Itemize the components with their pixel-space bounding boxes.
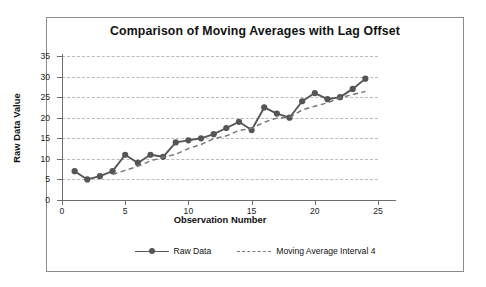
- y-tick-label: 5: [26, 174, 50, 184]
- y-tick-label: 30: [26, 72, 50, 82]
- chart-title: Comparison of Moving Averages with Lag O…: [46, 24, 464, 38]
- data-series-layer: [62, 56, 378, 200]
- data-point-marker: [350, 86, 356, 92]
- data-point-marker: [122, 152, 128, 158]
- x-tick: [315, 200, 316, 205]
- data-point-marker: [97, 173, 103, 179]
- y-tick-label: 25: [26, 92, 50, 102]
- y-tick: [57, 97, 62, 98]
- chart-page: Comparison of Moving Averages with Lag O…: [0, 0, 486, 287]
- series-line: [113, 91, 366, 174]
- data-point-marker: [173, 139, 179, 145]
- x-tick: [125, 200, 126, 205]
- x-tick-label: 5: [115, 206, 135, 216]
- legend-item-moving-average: Moving Average Interval 4: [237, 246, 375, 256]
- y-tick: [57, 118, 62, 119]
- x-tick-label: 0: [52, 206, 72, 216]
- x-tick: [378, 200, 379, 205]
- x-axis-line: [60, 200, 396, 201]
- data-point-marker: [72, 168, 78, 174]
- y-axis-title: Raw Data Value: [11, 93, 22, 162]
- y-tick: [57, 138, 62, 139]
- x-axis-title: Observation Number: [62, 214, 378, 225]
- x-tick-label: 15: [242, 206, 262, 216]
- data-point-marker: [198, 135, 204, 141]
- y-axis-line: [62, 54, 63, 202]
- x-tick-label: 10: [178, 206, 198, 216]
- data-point-marker: [299, 98, 305, 104]
- data-point-marker: [147, 152, 153, 158]
- y-tick-label: 35: [26, 51, 50, 61]
- y-tick: [57, 77, 62, 78]
- legend-label: Raw Data: [174, 246, 212, 256]
- y-tick: [57, 179, 62, 180]
- data-point-marker: [236, 119, 242, 125]
- y-tick-label: 15: [26, 133, 50, 143]
- data-point-marker: [84, 176, 90, 182]
- data-point-marker: [362, 76, 368, 82]
- x-tick-label: 25: [368, 206, 388, 216]
- y-tick-label: 20: [26, 113, 50, 123]
- y-tick: [57, 159, 62, 160]
- y-tick: [57, 56, 62, 57]
- x-tick-label: 20: [305, 206, 325, 216]
- x-tick: [62, 200, 63, 205]
- data-point-marker: [274, 111, 280, 117]
- dashed-line-icon: [237, 247, 271, 256]
- x-tick: [252, 200, 253, 205]
- plot-area: [62, 56, 378, 200]
- data-point-marker: [211, 131, 217, 137]
- solid-line-marker-icon: [135, 247, 169, 256]
- data-point-marker: [223, 125, 229, 131]
- data-point-marker: [312, 90, 318, 96]
- legend-label: Moving Average Interval 4: [276, 246, 375, 256]
- x-tick: [188, 200, 189, 205]
- data-point-marker: [185, 137, 191, 143]
- chart-legend: Raw Data Moving Average Interval 4: [46, 246, 464, 256]
- legend-item-raw-data: Raw Data: [135, 246, 212, 256]
- series-line: [75, 79, 366, 180]
- y-tick-label: 0: [26, 195, 50, 205]
- y-tick-label: 10: [26, 154, 50, 164]
- data-point-marker: [261, 104, 267, 110]
